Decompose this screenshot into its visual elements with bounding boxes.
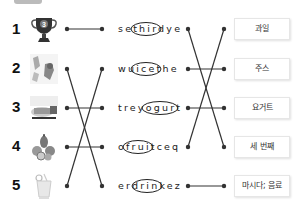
meaning-box-2: 주스 [234,58,290,80]
scrambled-word-1: sethirdye [118,23,182,35]
scrambled-word-5: erdrinkez [118,180,182,192]
meaning-box-3: 요거트 [234,97,290,119]
meaning-box-4: 세 번째 [234,136,290,158]
meaning-box-5: 마시다; 음료 [234,175,290,197]
scrambled-word-3: treyogurt [118,102,182,114]
scrambled-word-4: ofruitceq [118,141,182,153]
meaning-box-1: 과일 [234,18,290,40]
scrambled-word-2: wuicethe [118,63,182,75]
